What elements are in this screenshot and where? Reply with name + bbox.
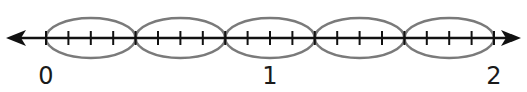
number-line-diagram: 0 1 2 — [0, 0, 527, 92]
label-one: 1 — [262, 62, 277, 90]
label-zero: 0 — [38, 62, 53, 90]
label-two: 2 — [486, 62, 501, 90]
tick-marks — [46, 31, 494, 45]
